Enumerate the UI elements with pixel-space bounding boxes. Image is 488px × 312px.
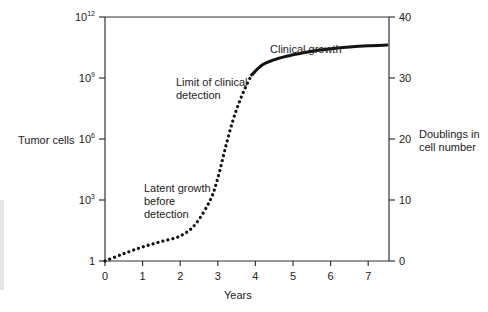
y-right-tick-label: 40: [399, 11, 411, 23]
annotation-limit-line2: detection: [176, 89, 221, 102]
annotation-latent-line3: detection: [144, 208, 189, 221]
y-right-tick-label: 20: [399, 133, 411, 145]
y-right-tick-label: 10: [399, 194, 411, 206]
x-tick-label: 0: [102, 270, 108, 282]
x-tick-label: 1: [140, 270, 146, 282]
y-left-tick-label: 103: [79, 193, 95, 206]
annotation-latent-line2: before: [144, 195, 175, 208]
chart-canvas: 0123456711031061091012010203040: [0, 0, 488, 312]
annotation-latent-line1: Latent growth: [144, 182, 211, 195]
left-axis-title: Tumor cells: [18, 134, 74, 147]
x-tick-label: 3: [215, 270, 221, 282]
clipped-margin-text: [0, 200, 4, 290]
x-axis-title: Years: [224, 289, 252, 302]
y-left-tick-label: 109: [79, 71, 95, 84]
y-left-tick-label: 1012: [75, 10, 95, 23]
tick-labels: 0123456711031061091012010203040: [75, 10, 411, 282]
x-tick-label: 6: [328, 270, 334, 282]
axes: [99, 17, 395, 266]
y-left-tick-label: 1: [89, 255, 95, 267]
y-left-tick-label: 106: [79, 132, 95, 145]
latent-growth-dotted-curve: [105, 75, 252, 261]
annotation-limit-line1: Limit of clinical: [176, 76, 248, 89]
right-axis-title-line2: cell number: [419, 141, 476, 154]
right-axis-title-line1: Doublings in: [419, 128, 480, 141]
x-tick-label: 7: [365, 270, 371, 282]
x-tick-label: 2: [177, 270, 183, 282]
x-tick-label: 5: [290, 270, 296, 282]
y-right-tick-label: 30: [399, 72, 411, 84]
annotation-clinical-growth: Clinical growth: [270, 43, 342, 56]
y-right-tick-label: 0: [399, 255, 405, 267]
x-tick-label: 4: [252, 270, 258, 282]
